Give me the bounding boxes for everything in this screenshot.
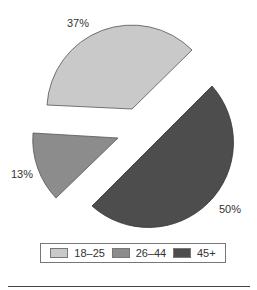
legend-swatch-icon [112, 248, 130, 258]
bottom-divider [8, 286, 250, 287]
legend-swatch-icon [173, 248, 191, 258]
label-18-25-percent: 37% [67, 17, 89, 29]
label-45-plus-percent: 50% [219, 203, 241, 215]
slice-26-44 [33, 133, 118, 198]
legend-item-26-44: 26–44 [112, 247, 167, 259]
legend-item-18-25: 18–25 [50, 247, 105, 259]
label-26-44-percent: 13% [11, 168, 33, 180]
legend-item-45-plus: 45+ [173, 247, 216, 259]
chart-legend: 18–25 26–44 45+ [40, 243, 226, 263]
slice-18-25 [47, 25, 192, 109]
legend-label: 45+ [197, 247, 216, 259]
legend-label: 26–44 [136, 247, 167, 259]
legend-swatch-icon [50, 248, 68, 258]
legend-label: 18–25 [74, 247, 105, 259]
